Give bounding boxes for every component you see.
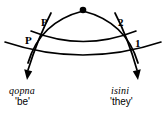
tone-label-p-lower: P — [25, 35, 32, 46]
tone-label-2: 2 — [118, 17, 124, 28]
tone-label-1: 1 — [135, 38, 141, 49]
gloss-label-right: 'they' — [110, 97, 133, 107]
pitch-contour-diagram: P P 2 1 qopna 'be' isini 'they' — [0, 0, 166, 113]
gloss-label-left: 'be' — [15, 97, 30, 107]
word-label-right: isini — [111, 86, 129, 96]
left-arrowhead-icon — [24, 69, 32, 80]
tone-label-p-upper: P — [41, 17, 48, 28]
right-arrowhead-icon — [133, 69, 141, 80]
apex-dot-marker — [80, 7, 87, 14]
word-label-left: qopna — [9, 86, 35, 96]
